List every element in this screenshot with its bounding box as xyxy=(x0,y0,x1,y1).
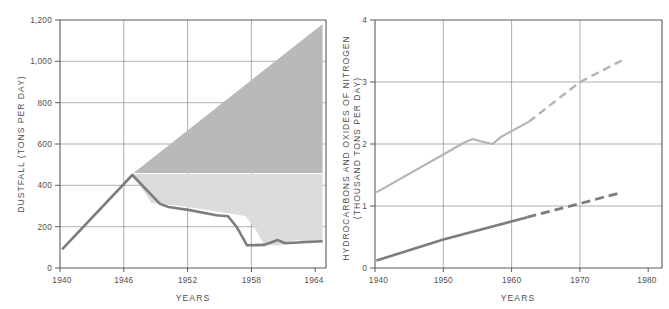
hydrocarbons-ytick-0: 0 xyxy=(362,263,367,273)
figure-root: DUSTFALL (TONS PER DAY) xyxy=(0,0,669,309)
hydrocarbons-xtick-1960: 1960 xyxy=(502,275,521,285)
dustfall-xtick-1964: 1964 xyxy=(304,275,323,285)
dustfall-ytick-400: 400 xyxy=(38,180,53,190)
dustfall-y-axis-title: DUSTFALL (TONS PER DAY) xyxy=(16,75,26,212)
dustfall-ytick-1000: 1,000 xyxy=(30,56,52,66)
dustfall-x-axis-title: YEARS xyxy=(176,293,210,303)
hydrocarbons-xtick-1950: 1950 xyxy=(434,275,453,285)
hydrocarbons-y-tick-labels: 0 1 2 3 4 xyxy=(362,15,367,273)
dustfall-chart-panel: DUSTFALL (TONS PER DAY) xyxy=(0,0,335,309)
dustfall-ytick-1200: 1,200 xyxy=(30,15,52,25)
hydrocarbons-chart-svg: HYDROCARBONS AND OXIDES OF NITROGEN (THO… xyxy=(335,0,669,309)
dustfall-x-tick-marks xyxy=(60,268,315,272)
hydrocarbons-chart-panel: HYDROCARBONS AND OXIDES OF NITROGEN (THO… xyxy=(335,0,669,309)
dustfall-xtick-1952: 1952 xyxy=(178,275,197,285)
dustfall-xtick-1946: 1946 xyxy=(114,275,133,285)
hydrocarbons-xtick-1940: 1940 xyxy=(369,275,388,285)
hydrocarbons-ytick-3: 3 xyxy=(362,77,367,87)
dustfall-xtick-1940: 1940 xyxy=(52,275,71,285)
dustfall-ytick-600: 600 xyxy=(38,139,53,149)
hydrocarbons-ytick-1: 1 xyxy=(362,201,367,211)
dustfall-y-tick-labels: 0 200 400 600 800 1,000 1,200 xyxy=(30,15,52,273)
hydrocarbons-y-axis-title-line2: (THOUSAND TONS PER DAY) xyxy=(352,77,362,219)
dustfall-ytick-800: 800 xyxy=(38,98,53,108)
hydrocarbons-ytick-4: 4 xyxy=(362,15,367,25)
hydrocarbons-ytick-2: 2 xyxy=(362,139,367,149)
hydrocarbons-y-tick-marks xyxy=(370,20,375,268)
hydrocarbons-y-axis-title-line1: HYDROCARBONS AND OXIDES OF NITROGEN xyxy=(341,35,351,261)
dustfall-y-tick-marks xyxy=(55,20,60,268)
hydrocarbons-x-tick-marks xyxy=(375,268,648,272)
dustfall-ytick-0: 0 xyxy=(47,263,52,273)
dustfall-ytick-200: 200 xyxy=(38,222,53,232)
hydrocarbons-xtick-1970: 1970 xyxy=(570,275,589,285)
hydrocarbons-x-tick-labels: 1940 1950 1960 1970 1980 xyxy=(369,275,657,285)
dustfall-chart-svg: DUSTFALL (TONS PER DAY) xyxy=(0,0,335,309)
dustfall-xtick-1958: 1958 xyxy=(242,275,261,285)
hydrocarbons-xtick-1980: 1980 xyxy=(637,275,656,285)
dustfall-x-tick-labels: 1940 1946 1952 1958 1964 xyxy=(52,275,323,285)
hydrocarbons-x-axis-title: YEARS xyxy=(501,293,535,303)
